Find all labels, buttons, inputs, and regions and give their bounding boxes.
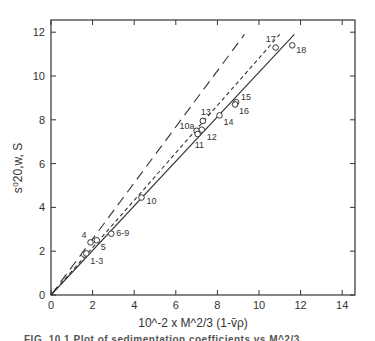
point-label: 5 xyxy=(101,242,106,252)
axis-ticks: 02468101214024681012 xyxy=(33,20,355,311)
x-axis-title: 10^-2 x M^2/3 (1-v̄ρ) xyxy=(138,316,247,330)
point-label: 15 xyxy=(241,92,251,102)
y-tick-label: 0 xyxy=(39,289,45,301)
figure-caption: FIG. 10.1 Plot of sedimentation coeffici… xyxy=(24,332,364,341)
point-label: 16 xyxy=(239,106,249,116)
point-label: 18 xyxy=(296,45,306,55)
point-label: 13 xyxy=(201,107,211,117)
data-point xyxy=(109,231,115,237)
data-point xyxy=(232,102,238,108)
axis-titles: 10^-2 x M^2/3 (1-v̄ρ)s⁰20,w, S xyxy=(11,143,248,330)
point-label: 11 xyxy=(195,140,204,150)
data-point xyxy=(273,45,279,51)
x-tick-label: 8 xyxy=(214,299,220,311)
y-axis-title: s⁰20,w, S xyxy=(11,143,25,193)
data-point xyxy=(289,43,295,49)
data-point xyxy=(200,118,206,124)
data-point xyxy=(139,195,145,201)
y-tick-label: 10 xyxy=(33,70,45,82)
y-tick-label: 4 xyxy=(39,201,45,213)
plot-border xyxy=(51,20,355,295)
x-tick-label: 6 xyxy=(173,299,179,311)
fit-line-long-dash xyxy=(51,34,244,295)
scatter-chart: 02468101214024681012 1-3456-91010a111213… xyxy=(0,0,375,341)
data-point xyxy=(94,237,100,243)
data-point xyxy=(84,251,90,257)
x-tick-label: 12 xyxy=(294,299,306,311)
y-tick-label: 12 xyxy=(33,26,45,38)
data-point xyxy=(217,113,223,119)
point-label: 6-9 xyxy=(116,228,129,238)
point-label: 17 xyxy=(266,34,276,44)
x-tick-label: 0 xyxy=(48,299,54,311)
x-tick-label: 14 xyxy=(336,299,348,311)
x-tick-label: 10 xyxy=(253,299,265,311)
y-tick-label: 2 xyxy=(39,245,45,257)
point-label: 10 xyxy=(146,196,156,206)
x-tick-label: 2 xyxy=(90,299,96,311)
data-points: 1-3456-91010a1112131415161718 xyxy=(81,34,306,267)
point-label: 12 xyxy=(207,132,217,142)
point-label: 14 xyxy=(223,117,233,127)
y-tick-label: 6 xyxy=(39,158,45,170)
point-label: 10a xyxy=(180,121,195,131)
data-point xyxy=(199,127,205,133)
y-tick-label: 8 xyxy=(39,114,45,126)
data-point xyxy=(88,240,94,246)
x-tick-label: 4 xyxy=(131,299,137,311)
point-label: 4 xyxy=(82,230,87,240)
plot-frame xyxy=(51,20,355,295)
point-label: 1-3 xyxy=(90,256,103,266)
